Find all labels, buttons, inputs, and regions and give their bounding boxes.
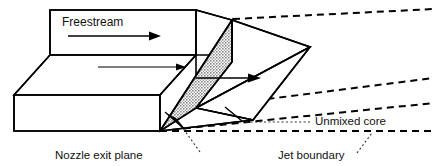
freestream-label: Freestream bbox=[62, 15, 123, 29]
jet-boundary-label: Jet boundary bbox=[278, 149, 345, 161]
nozzle-jet-diagram: Freestream Nozzle exit plane Unmixed cor… bbox=[0, 0, 434, 166]
figure-root: Freestream Nozzle exit plane Unmixed cor… bbox=[0, 0, 434, 166]
slab-front-face bbox=[14, 95, 160, 131]
unmixed-core-label: Unmixed core bbox=[315, 115, 386, 127]
nozzle-exit-plane-label: Nozzle exit plane bbox=[55, 149, 143, 161]
